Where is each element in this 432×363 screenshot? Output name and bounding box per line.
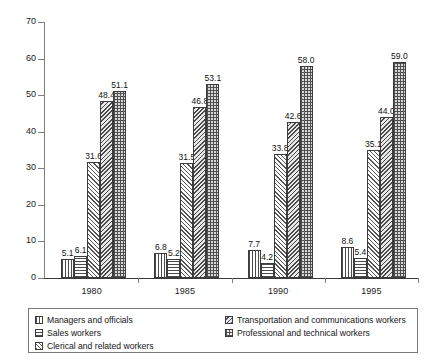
bar xyxy=(206,84,219,278)
y-tick-label: 60 xyxy=(26,54,36,63)
bar xyxy=(287,122,300,278)
x-category-label: 1980 xyxy=(45,286,138,296)
y-tick-label: 40 xyxy=(26,127,36,136)
bar-group xyxy=(154,22,219,278)
y-tick-label: 10 xyxy=(26,236,36,245)
x-category-label: 1990 xyxy=(232,286,325,296)
x-tick-mark xyxy=(138,278,139,283)
legend-label: Clerical and related workers xyxy=(47,341,154,351)
bar xyxy=(341,247,354,278)
x-category-label: 1985 xyxy=(138,286,231,296)
bar xyxy=(154,253,167,278)
bar xyxy=(61,259,74,278)
bar xyxy=(393,62,406,278)
bar xyxy=(74,256,87,278)
legend-swatch-icon xyxy=(225,329,233,337)
bar xyxy=(193,107,206,278)
legend-item: Professional and technical workers xyxy=(225,326,406,339)
legend-label: Managers and officials xyxy=(47,315,133,325)
y-tick-label: 0 xyxy=(31,273,36,282)
y-tick-label: 20 xyxy=(26,200,36,209)
bar xyxy=(248,250,261,278)
legend-swatch-icon xyxy=(35,342,43,350)
legend-swatch-icon xyxy=(35,316,43,324)
x-tick-mark xyxy=(418,278,419,283)
y-tick-label: 30 xyxy=(26,163,36,172)
x-tick-mark xyxy=(325,278,326,283)
bar xyxy=(167,259,180,278)
legend-column-2: Transportation and communications worker… xyxy=(225,313,406,339)
legend-item: Transportation and communications worker… xyxy=(225,313,406,326)
legend-label: Transportation and communications worker… xyxy=(237,315,406,325)
legend-column-1: Managers and officialsSales workersCleri… xyxy=(35,313,154,352)
bar-group xyxy=(341,22,406,278)
bar xyxy=(113,91,126,278)
bar-group xyxy=(248,22,313,278)
bar xyxy=(300,66,313,278)
chart-legend: Managers and officialsSales workersCleri… xyxy=(28,308,418,353)
y-tick-label: 50 xyxy=(26,90,36,99)
bar xyxy=(261,263,274,278)
bar xyxy=(180,163,193,278)
y-tick-label: 70 xyxy=(26,17,36,26)
legend-swatch-icon xyxy=(225,316,233,324)
legend-swatch-icon xyxy=(35,329,43,337)
bar-group xyxy=(61,22,126,278)
legend-label: Sales workers xyxy=(47,328,101,338)
bar xyxy=(367,150,380,278)
legend-item: Managers and officials xyxy=(35,313,154,326)
bar xyxy=(274,154,287,278)
legend-label: Professional and technical workers xyxy=(237,328,370,338)
legend-item: Sales workers xyxy=(35,326,154,339)
bar xyxy=(380,117,393,278)
x-category-label: 1995 xyxy=(325,286,418,296)
legend-item: Clerical and related workers xyxy=(35,339,154,352)
y-axis-labels: 010203040506070 xyxy=(0,0,44,279)
bar xyxy=(87,162,100,278)
x-tick-mark xyxy=(232,278,233,283)
bar xyxy=(354,258,367,278)
bar xyxy=(100,101,113,278)
chart-figure: 010203040506070 1980198519901995 Manager… xyxy=(0,0,432,363)
